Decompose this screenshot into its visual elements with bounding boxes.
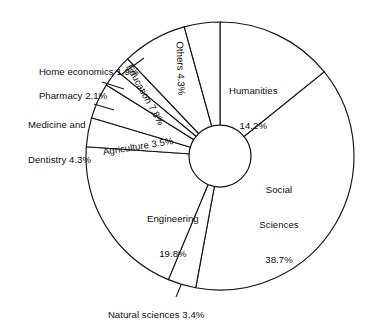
slice-label-humanities-line1: Humanities	[229, 85, 278, 97]
slice-label-social-sciences-line3: 38.7%	[259, 254, 298, 266]
slice-label-natural-sciences: Natural sciences 3.4%	[97, 297, 204, 321]
slice-label-engineering-line1: Engineering	[147, 213, 199, 225]
slice-label-engineering-line2: 19.8%	[147, 248, 199, 260]
slice-label-humanities: Humanities 14.2%	[229, 62, 278, 155]
slice-label-medicine-dentistry-line1: Medicine and	[28, 119, 91, 131]
slice-label-medicine-dentistry-line2: Dentistry 4.3%	[28, 154, 91, 166]
slice-label-others-text: Others 4.3%	[175, 41, 188, 95]
slice-label-social-sciences-line2: Sciences	[259, 219, 298, 231]
slice-label-others: Others 4.3%	[162, 30, 199, 96]
slice-label-medicine-dentistry: Medicine and Dentistry 4.3%	[28, 96, 91, 189]
leader-line-natural-sciences	[176, 285, 181, 297]
slice-label-social-sciences: Social Sciences 38.7%	[259, 161, 298, 289]
slice-label-natural-sciences-text: Natural sciences 3.4%	[108, 309, 205, 320]
pie-chart-figure: Home economics 1.9% Pharmacy 2.1% Medici…	[0, 0, 372, 321]
slice-label-agriculture-text: Agriculture 3.5%	[102, 135, 174, 157]
slice-label-humanities-line2: 14.2%	[229, 120, 278, 132]
slice-label-engineering: Engineering 19.8%	[147, 190, 199, 283]
slice-label-social-sciences-line1: Social	[259, 184, 298, 196]
